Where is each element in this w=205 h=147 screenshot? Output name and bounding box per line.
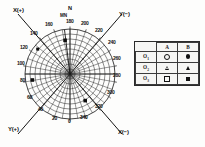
filled-triangle-icon — [186, 66, 190, 70]
legend-table: A B O1 O2 — [134, 41, 200, 86]
degree-label-0: 0 — [68, 119, 70, 124]
axis-label-y-negative: Y(−) — [119, 11, 130, 17]
legend-row-o2: O2 — [136, 62, 199, 73]
legend-cell-o2-b — [178, 62, 199, 73]
data-marker — [31, 78, 35, 82]
degree-label-260: 260 — [113, 56, 120, 61]
filled-circle-icon — [186, 54, 190, 58]
open-square-icon — [164, 76, 170, 82]
legend-header-row: A B — [136, 43, 199, 52]
degree-label-80: 80 — [20, 78, 25, 83]
degree-label-180: 180 — [66, 19, 73, 24]
degree-label-340: 340 — [80, 115, 87, 120]
axis-label-x-negative: X(−) — [118, 129, 129, 135]
degree-label-60: 60 — [27, 95, 32, 100]
legend-header-b: B — [178, 43, 199, 52]
magnetic-north-line — [65, 30, 71, 74]
legend-corner-cell — [136, 43, 157, 52]
legend-header-a: A — [157, 43, 178, 52]
data-marker — [83, 99, 87, 103]
degree-label-140: 140 — [30, 31, 37, 36]
degree-label-240: 240 — [108, 40, 115, 45]
open-triangle-icon — [165, 66, 169, 70]
legend-cell-o1-b — [178, 51, 199, 62]
legend-cell-o2-a — [157, 62, 178, 73]
legend-rowlabel-o1: O1 — [136, 51, 157, 62]
data-markers — [31, 39, 87, 103]
degree-label-200: 200 — [81, 21, 88, 26]
degree-label-100: 100 — [17, 61, 24, 66]
legend-cell-o3-b — [178, 73, 199, 84]
axis-label-x-positive: X(+) — [13, 7, 24, 13]
compass-north-label: N — [68, 6, 72, 12]
degree-label-220: 220 — [95, 28, 102, 33]
legend-row-o3: O3 — [136, 73, 199, 84]
degree-label-20: 20 — [52, 116, 57, 121]
data-marker — [36, 48, 39, 51]
legend-rowlabel-o3: O3 — [136, 73, 157, 84]
open-circle-icon — [164, 54, 170, 60]
degree-label-320: 320 — [95, 104, 102, 109]
legend-row-o1: O1 — [136, 51, 199, 62]
legend-cell-o1-a — [157, 51, 178, 62]
degree-label-300: 300 — [107, 90, 114, 95]
degree-label-40: 40 — [38, 107, 43, 112]
legend-cell-o3-a — [157, 73, 178, 84]
axis-label-y-positive: Y(+) — [8, 126, 19, 132]
filled-square-icon — [186, 77, 191, 82]
figure-root: X(+) Y(−) Y(+) X(−) N MN 180 200 220 240… — [0, 0, 205, 147]
degree-label-160: 160 — [45, 22, 52, 27]
data-marker — [63, 39, 67, 43]
degree-label-120: 120 — [20, 45, 27, 50]
legend-rowlabel-o2: O2 — [136, 62, 157, 73]
degree-label-280: 280 — [113, 73, 120, 78]
